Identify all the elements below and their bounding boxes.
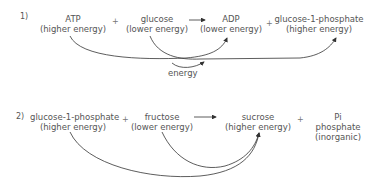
g1p-energy: (higher energy) [274,24,364,34]
atp-energy: (higher energy) [38,24,108,34]
g1p2-energy: (higher energy) [30,122,116,132]
sucrose-label: sucrose [222,112,294,122]
g1p-label: glucose-1-phosphate [274,14,364,24]
reaction1-glucose-to-g1p-curve [150,36,336,59]
pi-line2: phosphate [310,122,366,132]
reaction1-atp: ATP (higher energy) [38,14,108,34]
fructose-energy: (lower energy) [130,122,194,132]
reaction1-plus2: + [266,19,273,28]
reaction2-g1p: glucose-1-phosphate (higher energy) [30,112,116,132]
reaction1-number: 1) [20,12,28,21]
reaction2-plus2: + [297,115,304,124]
glucose-label: glucose [124,14,190,24]
fructose-label: fructose [130,112,194,122]
reaction1-atp-to-adp-curve [70,36,227,59]
adp-label: ADP [198,14,264,24]
g1p2-label: glucose-1-phosphate [30,112,116,122]
reaction1-g1p: glucose-1-phosphate (higher energy) [274,14,364,34]
reaction1-glucose: glucose (lower energy) [124,14,190,34]
reaction2-number: 2) [16,112,24,121]
reaction2-fructose: fructose (lower energy) [130,112,194,132]
adp-energy: (lower energy) [198,24,264,34]
sucrose-energy: (higher energy) [222,122,294,132]
pi-line3: (inorganic) [310,132,366,142]
reaction1-plus1: + [112,17,119,26]
pi-label: Pi [310,112,366,122]
reaction2-sucrose: sucrose (higher energy) [222,112,294,132]
energy-label: energy [168,68,198,78]
reaction2-plus1: + [122,115,129,124]
glucose-energy: (lower energy) [124,24,190,34]
reaction1-energy-curve [172,62,204,67]
reaction1-adp: ADP (lower energy) [198,14,264,34]
reaction2-g1p-to-sucrose-curve [70,132,259,177]
reaction2-pi: Pi phosphate (inorganic) [310,112,366,142]
atp-label: ATP [38,14,108,24]
reaction2-fructose-to-sucrose-curve [162,132,259,168]
